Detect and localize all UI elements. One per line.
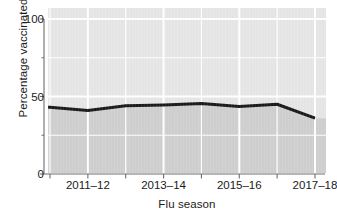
plot-panel — [48, 8, 326, 174]
x-tick-label: 2013–14 — [141, 179, 186, 191]
area-fill — [48, 103, 326, 174]
x-axis-title: Flu season — [48, 198, 326, 210]
plot-area-svg — [48, 8, 326, 174]
x-tick-label: 2017–18 — [293, 179, 337, 191]
y-tick-label: 50 — [0, 91, 44, 103]
y-tick-label: 0 — [0, 168, 44, 180]
flu-vaccination-chart: Percentage vaccinated 050100 2011–122013… — [0, 0, 337, 217]
area-fill-group — [48, 103, 326, 174]
y-tick-label: 100 — [0, 13, 44, 25]
x-tick-label: 2015–16 — [217, 179, 262, 191]
x-tick-label: 2011–12 — [66, 179, 110, 191]
